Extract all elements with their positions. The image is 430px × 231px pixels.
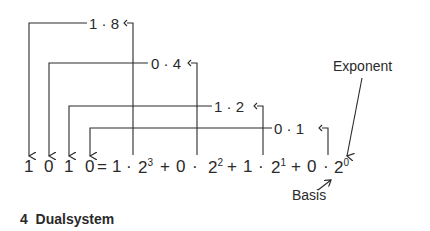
exponent-arrow	[347, 78, 362, 156]
binary-digit: 0	[85, 158, 94, 175]
binary-digit: 1	[64, 158, 73, 175]
term-power: 21	[271, 158, 286, 176]
equals-sign: =	[97, 158, 107, 175]
term-power: 22	[208, 158, 223, 176]
binary-digit: 1	[24, 158, 33, 175]
term-coefficient: 1	[243, 158, 252, 175]
term-dot: ·	[126, 158, 132, 175]
connector-1x8	[29, 20, 133, 156]
term-coefficient: 1	[112, 158, 121, 175]
product-label-1x2: 1 · 2	[214, 99, 244, 114]
plus-sign: +	[291, 158, 301, 175]
term-coefficient: 0	[307, 158, 316, 175]
term-power: 23	[138, 158, 153, 176]
product-label-1x8: 1 · 8	[89, 16, 119, 31]
term-dot: ·	[323, 158, 329, 175]
plus-sign: +	[227, 158, 237, 175]
term-coefficient: 0	[176, 158, 185, 175]
connector-0x4	[49, 60, 197, 156]
connector-lines	[0, 0, 430, 231]
product-label-0x4: 0 · 4	[151, 56, 181, 71]
term-power: 20	[334, 158, 349, 176]
basis-label: Basis	[292, 187, 326, 203]
exponent-label: Exponent	[333, 58, 392, 74]
term-dot: ·	[192, 158, 198, 175]
binary-digit: 0	[44, 158, 53, 175]
product-label-0x1: 0 · 1	[274, 121, 304, 136]
plus-sign: +	[160, 158, 170, 175]
term-dot: ·	[258, 158, 264, 175]
figure-caption: 4 Dualsystem	[20, 211, 114, 227]
